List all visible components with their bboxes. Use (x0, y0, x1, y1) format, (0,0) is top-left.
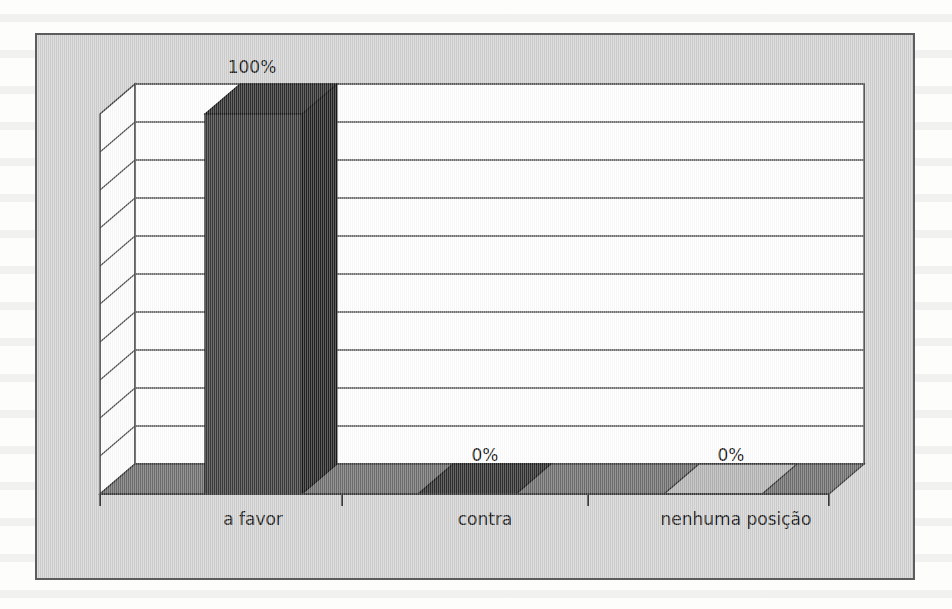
category-label-a-favor: a favor (163, 511, 343, 528)
bar-a-favor[interactable] (205, 84, 337, 494)
category-label-contra: contra (395, 511, 575, 528)
value-label-nenhuma-posicao: 0% (676, 447, 786, 464)
category-label-nenhuma-posicao: nenhuma posição (621, 511, 851, 528)
x-axis (100, 494, 829, 506)
scanned-page: 100% 0% 0% a favor contra nenhuma posiçã… (0, 0, 952, 609)
figure-frame: 100% 0% 0% a favor contra nenhuma posiçã… (35, 33, 915, 580)
plot-left-wall (100, 84, 135, 494)
value-label-a-favor: 100% (197, 59, 307, 76)
value-label-contra: 0% (430, 447, 540, 464)
bar-chart-3d (37, 35, 917, 582)
